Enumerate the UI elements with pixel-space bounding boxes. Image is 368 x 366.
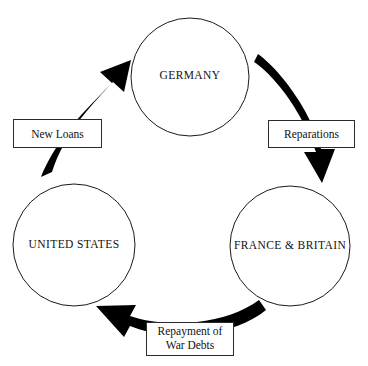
edge-label-new-loans: New Loans <box>13 119 102 148</box>
diagram-canvas <box>0 0 368 366</box>
edge-label-repayment-line-1: Repayment of <box>158 325 223 339</box>
arrow-reparations <box>254 54 335 183</box>
node-label-germany: GERMANY <box>131 69 249 82</box>
node-label-france-britain: FRANCE & BRITAIN <box>228 239 352 252</box>
node-label-united-states: UNITED STATES <box>13 238 135 251</box>
edge-label-reparations: Reparations <box>268 120 355 148</box>
edge-label-reparations-text: Reparations <box>284 128 339 140</box>
cycle-diagram: GERMANY UNITED STATES FRANCE & BRITAIN N… <box>0 0 368 366</box>
edge-label-repayment-line-2: War Debts <box>166 339 215 353</box>
edge-label-new-loans-text: New Loans <box>31 128 84 140</box>
edge-label-repayment-of-war-debts: Repayment of War Debts <box>146 322 234 356</box>
